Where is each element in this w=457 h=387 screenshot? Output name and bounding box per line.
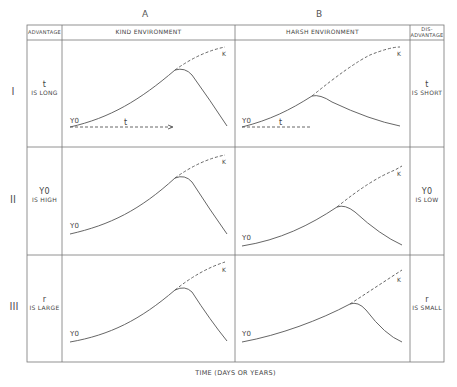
y0-label-III-A: Y0 <box>70 330 79 338</box>
advantage-cell-III: r IS LARGE <box>27 295 62 311</box>
y0-label-III-B: Y0 <box>242 330 251 338</box>
t-label-I-B: t <box>279 118 282 127</box>
panel-III-A <box>70 262 227 342</box>
k-label-II-B: K <box>397 170 401 177</box>
y0-label-I-B: Y0 <box>242 117 251 125</box>
panel-I-B <box>242 47 400 127</box>
advantage-cell-I: t IS LONG <box>27 80 62 96</box>
k-label-I-A: K <box>222 50 226 57</box>
harsh-environment-header: HARSH ENVIRONMENT <box>235 28 410 35</box>
k-label-I-B: K <box>397 50 401 57</box>
y0-label-I-A: Y0 <box>70 117 79 125</box>
k-label-III-A: K <box>222 266 226 273</box>
advantage-header: ADVANTAGE <box>27 29 62 35</box>
y0-label-II-A: Y0 <box>70 222 79 230</box>
column-b-letter: B <box>316 9 322 19</box>
disadvantage-cell-II: Y0 IS LOW <box>410 187 444 203</box>
kind-environment-header: KIND ENVIRONMENT <box>62 28 235 35</box>
t-label-I-A: t <box>124 118 127 127</box>
x-axis-label: TIME (DAYS OR YEARS) <box>27 369 444 377</box>
panel-II-B <box>242 166 402 246</box>
panel-I-A <box>70 47 227 129</box>
row-numeral-III: III <box>4 301 24 312</box>
diagram-grid <box>0 0 457 387</box>
row-numeral-II: II <box>4 194 22 205</box>
row-numeral-I: I <box>6 86 20 97</box>
y0-label-II-B: Y0 <box>242 234 251 242</box>
advantage-cell-II: Y0 IS HIGH <box>27 187 62 203</box>
panel-III-B <box>242 270 402 342</box>
k-label-III-B: K <box>397 276 401 283</box>
disadvantage-cell-III: r IS SMALL <box>410 295 444 311</box>
disadvantage-cell-I: t IS SHORT <box>410 80 444 96</box>
disadvantage-header: DIS- ADVANTAGE <box>410 26 444 38</box>
k-label-II-A: K <box>222 158 226 165</box>
panel-II-A <box>70 155 227 234</box>
column-a-letter: A <box>142 9 148 19</box>
